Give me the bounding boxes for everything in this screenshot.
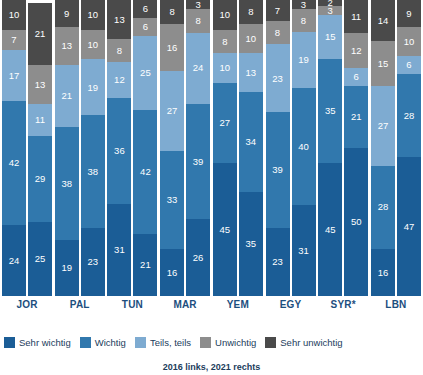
bar-segment[interactable]: 21 [28, 3, 52, 65]
bar-lbn-2021[interactable]: 47286109 [397, 0, 421, 296]
bar-segment[interactable]: 11 [28, 104, 52, 137]
bar-segment[interactable]: 7 [266, 0, 290, 21]
bar-tun-2021[interactable]: 21422566 [133, 0, 157, 296]
bar-segment[interactable]: 10 [239, 24, 263, 54]
bar-jor-2016[interactable]: 244217710 [2, 0, 26, 296]
bar-segment[interactable]: 29 [28, 136, 52, 222]
bar-segment[interactable]: 39 [266, 112, 290, 227]
bar-lbn-2016[interactable]: 1628271514 [371, 0, 395, 296]
bar-segment[interactable]: 6 [344, 68, 368, 86]
bar-egy-2021[interactable]: 31401983 [292, 0, 316, 296]
bar-segment[interactable]: 8 [186, 9, 210, 33]
bar-segment[interactable]: 3 [186, 0, 210, 9]
bar-segment[interactable]: 33 [160, 151, 184, 249]
bar-segment[interactable]: 40 [292, 88, 316, 205]
bar-segment[interactable]: 8 [160, 0, 184, 24]
bar-segment[interactable]: 6 [133, 18, 157, 36]
bar-segment[interactable]: 26 [186, 219, 210, 296]
bar-segment[interactable]: 8 [107, 39, 131, 63]
bar-jor-2021[interactable]: 2529111321 [28, 0, 52, 296]
bar-segment[interactable]: 25 [133, 36, 157, 110]
bar-syr-2016[interactable]: 45351532 [318, 0, 342, 296]
bar-segment[interactable]: 17 [2, 50, 26, 100]
bar-segment[interactable]: 19 [55, 240, 79, 296]
bar-segment[interactable]: 23 [266, 228, 290, 296]
bar-segment[interactable]: 31 [292, 205, 316, 296]
bar-segment[interactable]: 47 [397, 157, 421, 296]
bar-segment[interactable]: 24 [186, 33, 210, 104]
bar-segment[interactable]: 42 [133, 110, 157, 234]
bar-segment[interactable]: 8 [292, 9, 316, 32]
bar-segment[interactable]: 13 [28, 65, 52, 103]
bar-segment[interactable]: 28 [397, 74, 421, 157]
bar-segment[interactable]: 45 [213, 163, 237, 296]
bar-segment[interactable]: 25 [28, 222, 52, 296]
bar-segment[interactable]: 31 [107, 204, 131, 296]
bar-segment[interactable]: 23 [266, 44, 290, 112]
bar-segment[interactable]: 19 [292, 32, 316, 88]
bar-segment[interactable]: 9 [397, 0, 421, 27]
bar-segment[interactable]: 39 [186, 104, 210, 219]
bar-segment[interactable]: 21 [344, 86, 368, 148]
bar-segment[interactable]: 34 [239, 92, 263, 193]
bar-egy-2016[interactable]: 23392387 [266, 0, 290, 296]
bar-segment[interactable]: 10 [213, 0, 237, 30]
bar-yem-2021[interactable]: 353413108 [239, 0, 263, 296]
bar-segment[interactable]: 6 [397, 56, 421, 74]
bar-segment[interactable]: 15 [318, 15, 342, 59]
bar-segment[interactable]: 27 [160, 71, 184, 151]
bar-segment[interactable]: 13 [107, 0, 131, 38]
bar-segment[interactable]: 10 [2, 0, 26, 30]
bar-segment[interactable]: 7 [2, 30, 26, 51]
bar-segment[interactable]: 8 [213, 30, 237, 54]
bar-segment[interactable]: 6 [133, 0, 157, 18]
bar-segment[interactable]: 9 [55, 0, 79, 27]
bar-segment[interactable]: 3 [292, 0, 316, 9]
bar-mar-2016[interactable]: 163327168 [160, 0, 184, 296]
bar-segment[interactable]: 10 [397, 27, 421, 57]
bar-segment[interactable]: 10 [213, 53, 237, 83]
legend-item-4[interactable]: Sehr unwichtig [265, 337, 342, 348]
bar-segment[interactable]: 35 [318, 59, 342, 163]
bar-segment[interactable]: 42 [2, 101, 26, 225]
bar-segment[interactable]: 10 [81, 30, 105, 60]
bar-segment[interactable]: 13 [239, 53, 263, 91]
legend-item-0[interactable]: Sehr wichtig [4, 337, 71, 348]
bar-segment[interactable]: 23 [81, 228, 105, 296]
legend-item-3[interactable]: Unwichtig [200, 337, 256, 348]
bar-segment[interactable]: 15 [371, 41, 395, 85]
bar-segment[interactable]: 16 [160, 249, 184, 296]
bar-segment[interactable]: 38 [55, 127, 79, 239]
bar-segment[interactable]: 50 [344, 148, 368, 296]
bar-segment[interactable]: 45 [318, 163, 342, 296]
bar-yem-2016[interactable]: 452710810 [213, 0, 237, 296]
bar-mar-2021[interactable]: 26392483 [186, 0, 210, 296]
bar-segment[interactable]: 3 [318, 6, 342, 15]
bar-segment[interactable]: 21 [55, 65, 79, 127]
bar-segment[interactable]: 16 [160, 24, 184, 71]
bar-pal-2016[interactable]: 193821139 [55, 0, 79, 296]
bar-segment[interactable]: 16 [371, 249, 395, 296]
bar-syr-2021[interactable]: 502161211 [344, 0, 368, 296]
bar-segment[interactable]: 27 [213, 83, 237, 163]
bar-segment[interactable]: 12 [107, 62, 131, 98]
bar-segment[interactable]: 28 [371, 166, 395, 249]
bar-segment[interactable]: 27 [371, 86, 395, 166]
bar-tun-2016[interactable]: 313612813 [107, 0, 131, 296]
bar-segment[interactable]: 21 [133, 234, 157, 296]
bar-segment[interactable]: 35 [239, 192, 263, 296]
legend-item-2[interactable]: Teils, teils [135, 337, 191, 348]
bar-segment[interactable]: 8 [239, 0, 263, 24]
bar-segment[interactable]: 12 [344, 33, 368, 69]
bar-segment[interactable]: 36 [107, 98, 131, 205]
bar-segment[interactable]: 38 [81, 115, 105, 227]
bar-pal-2021[interactable]: 2338191010 [81, 0, 105, 296]
legend-item-1[interactable]: Wichtig [80, 337, 126, 348]
bar-segment[interactable]: 10 [81, 0, 105, 30]
bar-segment[interactable]: 24 [2, 225, 26, 296]
bar-segment[interactable]: 19 [81, 59, 105, 115]
bar-segment[interactable]: 8 [266, 21, 290, 45]
bar-segment[interactable]: 11 [344, 0, 368, 33]
bar-segment[interactable]: 13 [55, 27, 79, 65]
bar-segment[interactable]: 14 [371, 0, 395, 41]
